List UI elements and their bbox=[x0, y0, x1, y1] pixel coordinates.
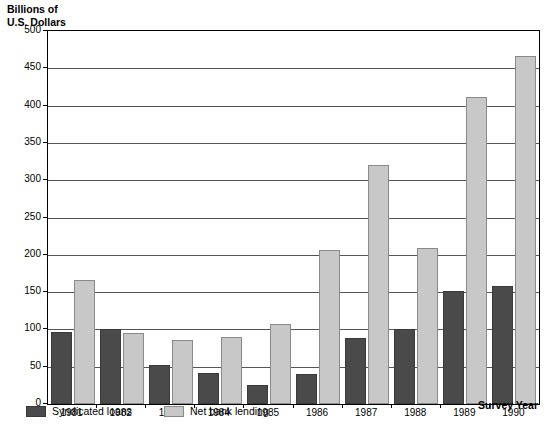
bars-layer bbox=[48, 31, 539, 404]
bar-syndicated-loans-1985 bbox=[247, 385, 268, 404]
bar-net-bank-lending-1985 bbox=[270, 324, 291, 404]
y-axis-tick-mark bbox=[43, 291, 47, 292]
x-axis-tick-label: 1988 bbox=[390, 407, 440, 418]
y-axis-tick-mark bbox=[43, 328, 47, 329]
bar-net-bank-lending-1981 bbox=[74, 280, 95, 404]
legend-item-syndicated-loans: Syndicated loans bbox=[26, 405, 132, 417]
y-axis-tick-label: 250 bbox=[0, 212, 41, 222]
y-axis-tick-label: 350 bbox=[0, 137, 41, 147]
y-axis-tick-mark bbox=[43, 254, 47, 255]
legend-item-net-bank-lending: Net bank lending bbox=[164, 405, 269, 417]
y-axis-tick-mark bbox=[43, 217, 47, 218]
bar-syndicated-loans-1981 bbox=[51, 332, 72, 404]
y-axis-tick-mark bbox=[43, 105, 47, 106]
x-axis-tick-label: 1986 bbox=[292, 407, 342, 418]
bar-syndicated-loans-1986 bbox=[296, 374, 317, 404]
y-axis-tick-label: 200 bbox=[0, 249, 41, 259]
y-axis-tick-mark bbox=[43, 67, 47, 68]
y-axis-tick-label: 150 bbox=[0, 286, 41, 296]
bar-net-bank-lending-1987 bbox=[368, 165, 389, 404]
bar-chart: Billions of U.S. Dollars 050100150200250… bbox=[0, 0, 546, 424]
y-axis-tick-mark bbox=[43, 30, 47, 31]
bar-net-bank-lending-1990 bbox=[515, 56, 536, 404]
x-axis-title: Survey Year bbox=[478, 399, 538, 411]
bar-syndicated-loans-1989 bbox=[443, 291, 464, 404]
bar-syndicated-loans-1990 bbox=[492, 286, 513, 404]
legend-swatch-icon bbox=[26, 406, 46, 417]
y-axis-tick-label: 300 bbox=[0, 174, 41, 184]
y-axis-tick-label: 500 bbox=[0, 25, 41, 35]
legend-label: Net bank lending bbox=[190, 405, 269, 417]
bar-syndicated-loans-1987 bbox=[345, 338, 366, 404]
bar-net-bank-lending-1989 bbox=[466, 97, 487, 404]
y-axis-tick-label: 50 bbox=[0, 361, 41, 371]
bar-net-bank-lending-1983 bbox=[172, 340, 193, 404]
legend-swatch-icon bbox=[164, 406, 184, 417]
bar-syndicated-loans-1988 bbox=[394, 329, 415, 404]
y-axis-tick-label: 400 bbox=[0, 100, 41, 110]
y-axis-tick-label: 450 bbox=[0, 62, 41, 72]
y-axis-tick-mark bbox=[43, 403, 47, 404]
legend-label: Syndicated loans bbox=[52, 405, 132, 417]
bar-syndicated-loans-1984 bbox=[198, 373, 219, 404]
y-axis-tick-mark bbox=[43, 366, 47, 367]
bar-syndicated-loans-1983 bbox=[149, 365, 170, 404]
y-axis-tick-mark bbox=[43, 142, 47, 143]
plot-area bbox=[47, 30, 540, 405]
y-axis-tick-label: 100 bbox=[0, 323, 41, 333]
bar-net-bank-lending-1982 bbox=[123, 333, 144, 404]
bar-syndicated-loans-1982 bbox=[100, 329, 121, 404]
chart-legend: Syndicated loans Net bank lending bbox=[26, 405, 295, 417]
bar-net-bank-lending-1988 bbox=[417, 248, 438, 404]
bar-net-bank-lending-1986 bbox=[319, 250, 340, 404]
y-axis-tick-mark bbox=[43, 179, 47, 180]
x-axis-tick-label: 1987 bbox=[341, 407, 391, 418]
bar-net-bank-lending-1984 bbox=[221, 337, 242, 404]
